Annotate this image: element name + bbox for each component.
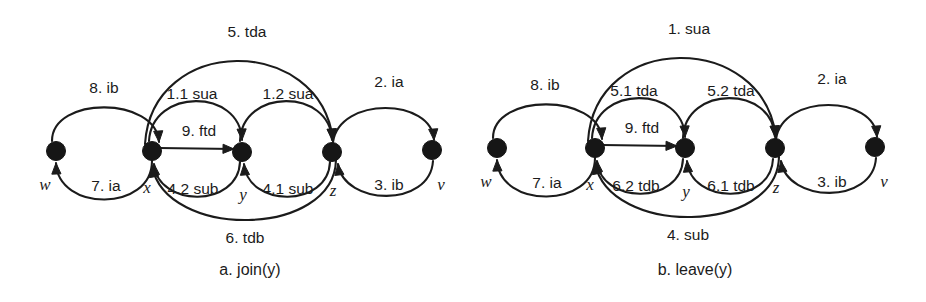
- node-dot-w: [47, 142, 66, 161]
- node-label-w: w: [480, 172, 492, 191]
- node-label-x: x: [585, 175, 594, 194]
- edge-a-3-ib[interactable]: 3. ib: [335, 161, 433, 196]
- edge-b-7-ia[interactable]: 7. ia: [493, 158, 595, 197]
- arrowhead-b-2-ia: [872, 126, 881, 137]
- edge-a-1-2-sua[interactable]: 1.2 sua: [240, 85, 336, 141]
- edge-path-a-8-ib: [52, 107, 159, 142]
- edge-b-1-sua[interactable]: 1. sua: [588, 20, 779, 141]
- arrowhead-a-7-ia: [52, 163, 61, 174]
- edge-label-a-3-ib: 3. ib: [374, 176, 403, 193]
- edge-label-b-2-ia: 2. ia: [817, 70, 847, 87]
- edge-path-a-2-ia: [333, 108, 434, 142]
- edge-b-9-ftd[interactable]: 9. ftd: [602, 119, 677, 150]
- edge-b-2-ia[interactable]: 2. ia: [776, 70, 881, 139]
- node-dot-v: [423, 141, 442, 160]
- arrowhead-a-2-ia: [429, 129, 438, 140]
- edge-label-b-6-1-tdb: 6.1 tdb: [707, 177, 754, 194]
- node-label-v: v: [437, 175, 445, 194]
- node-dot-x: [143, 142, 162, 161]
- edge-label-a-2-ia: 2. ia: [374, 73, 404, 90]
- edge-label-b-6-2-tdb: 6.2 tdb: [612, 177, 659, 194]
- node-a-v[interactable]: v: [423, 141, 446, 195]
- node-dot-z: [766, 139, 785, 158]
- edge-path-b-5-2-tda: [683, 98, 775, 138]
- node-dot-z: [323, 143, 342, 162]
- node-b-v[interactable]: v: [866, 138, 889, 192]
- panel-caption-b: b. leave(y): [658, 261, 733, 278]
- node-b-w[interactable]: w: [480, 139, 506, 192]
- edge-label-b-5-1-tda: 5.1 tda: [610, 82, 658, 99]
- edge-label-b-4-sub: 4. sub: [667, 226, 709, 243]
- edge-label-b-3-ib: 3. ib: [817, 173, 846, 190]
- node-label-y: y: [680, 182, 690, 201]
- edge-path-b-8-ib: [493, 104, 602, 139]
- node-dot-v: [866, 138, 885, 157]
- graph-b: 8. ib7. ia5.1 tda5.2 tda1. sua6.2 tdb6.1…: [463, 0, 926, 302]
- arrowhead-b-8-ib: [597, 128, 606, 139]
- edge-label-a-4-2-sub: 4.2 sub: [168, 180, 219, 197]
- edge-label-a-7-ia: 7. ia: [91, 177, 121, 194]
- arrowhead-a-4-1-sub: [240, 164, 249, 175]
- graph-a: 8. ib7. ia1.1 sua1.2 sua5. tda4.2 sub4.1…: [0, 0, 463, 302]
- edge-label-a-6-tdb: 6. tdb: [226, 229, 265, 246]
- node-label-z: z: [772, 178, 780, 197]
- edge-a-7-ia[interactable]: 7. ia: [52, 161, 152, 200]
- node-dot-y: [233, 143, 252, 162]
- edge-label-a-5-tda: 5. tda: [228, 23, 267, 40]
- edge-a-5-tda[interactable]: 5. tda: [145, 23, 336, 144]
- edge-label-b-5-2-tda: 5.2 tda: [707, 82, 755, 99]
- panel-caption-a: a. join(y): [219, 261, 280, 278]
- diagram-panel-leave: 8. ib7. ia5.1 tda5.2 tda1. sua6.2 tdb6.1…: [463, 0, 926, 302]
- edge-b-3-ib[interactable]: 3. ib: [778, 158, 876, 193]
- node-label-x: x: [142, 178, 151, 197]
- arrowhead-b-6-1-tdb: [683, 161, 692, 172]
- edge-label-b-7-ia: 7. ia: [532, 174, 562, 191]
- edge-b-6-1-tdb[interactable]: 6.1 tdb: [683, 159, 773, 194]
- node-dot-w: [488, 139, 507, 158]
- node-label-w: w: [39, 175, 51, 194]
- diagram-panel-join: 8. ib7. ia1.1 sua1.2 sua5. tda4.2 sub4.1…: [0, 0, 463, 302]
- edge-label-a-4-1-sub: 4.1 sub: [263, 180, 314, 197]
- node-dot-y: [676, 139, 695, 158]
- edge-a-9-ftd[interactable]: 9. ftd: [159, 122, 234, 153]
- edge-a-2-ia[interactable]: 2. ia: [333, 73, 438, 142]
- edge-label-a-8-ib: 8. ib: [89, 79, 118, 96]
- edge-path-b-2-ia: [776, 105, 877, 139]
- node-a-w[interactable]: w: [39, 142, 65, 195]
- node-label-z: z: [329, 181, 337, 200]
- arrowhead-b-7-ia: [493, 160, 502, 171]
- edge-label-a-9-ftd: 9. ftd: [182, 122, 216, 139]
- node-dot-x: [586, 139, 605, 158]
- arrowhead-a-8-ib: [154, 131, 163, 142]
- node-label-y: y: [237, 185, 247, 204]
- state-transition-figure: 8. ib7. ia1.1 sua1.2 sua5. tda4.2 sub4.1…: [0, 0, 926, 302]
- node-label-v: v: [880, 172, 888, 191]
- edge-label-b-1-sua: 1. sua: [668, 20, 711, 37]
- edge-label-b-9-ftd: 9. ftd: [625, 119, 659, 136]
- edge-label-a-1-1-sua: 1.1 sua: [167, 85, 218, 102]
- edge-a-4-1-sub[interactable]: 4.1 sub: [240, 162, 330, 197]
- edge-label-b-8-ib: 8. ib: [530, 76, 559, 93]
- edge-path-a-1-2-sua: [240, 101, 332, 141]
- edge-b-5-2-tda[interactable]: 5.2 tda: [683, 82, 779, 138]
